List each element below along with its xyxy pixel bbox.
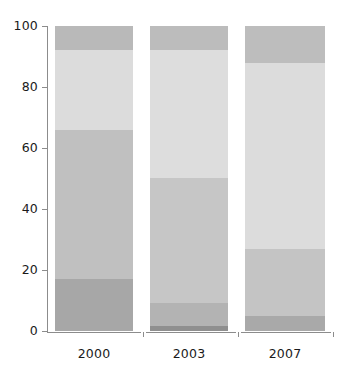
bar-2003-band-a bbox=[150, 326, 228, 331]
y-axis-tick-label-0: 0 bbox=[0, 325, 38, 338]
x-axis-tick-3 bbox=[333, 332, 334, 337]
y-axis-line bbox=[47, 26, 48, 332]
bar-2003-band-c bbox=[150, 178, 228, 303]
x-axis-segment-3 bbox=[241, 332, 331, 333]
stacked-bar-chart: 0 20 40 60 80 100 2000 2003 2007 bbox=[0, 0, 346, 386]
bar-2003-band-e bbox=[150, 26, 228, 50]
bar-2007-band-b bbox=[245, 249, 325, 316]
y-axis-tick-80 bbox=[42, 87, 47, 88]
y-axis-tick-20 bbox=[42, 270, 47, 271]
x-axis-label-2007: 2007 bbox=[245, 348, 325, 361]
bar-2000-band-b bbox=[55, 130, 133, 279]
y-axis-tick-100 bbox=[42, 26, 47, 27]
bar-2007 bbox=[245, 26, 325, 331]
bar-2007-band-a bbox=[245, 316, 325, 331]
y-axis-tick-label-40: 40 bbox=[0, 203, 38, 216]
bar-2000-band-a bbox=[55, 279, 133, 331]
x-axis-segment-1 bbox=[47, 332, 141, 333]
bar-2000 bbox=[55, 26, 133, 331]
bar-2003-band-d bbox=[150, 50, 228, 178]
bar-2007-band-c bbox=[245, 63, 325, 249]
bar-2000-band-c bbox=[55, 50, 133, 130]
x-axis-tick-2 bbox=[238, 332, 239, 337]
bar-2007-band-d bbox=[245, 26, 325, 63]
x-axis-label-2000: 2000 bbox=[54, 348, 134, 361]
x-axis-segment-2 bbox=[146, 332, 236, 333]
y-axis-tick-label-100: 100 bbox=[0, 20, 38, 33]
x-axis-label-2003: 2003 bbox=[149, 348, 229, 361]
bar-2003-band-b bbox=[150, 303, 228, 326]
y-axis-tick-label-60: 60 bbox=[0, 142, 38, 155]
y-axis-tick-40 bbox=[42, 209, 47, 210]
y-axis-tick-label-80: 80 bbox=[0, 81, 38, 94]
y-axis-tick-60 bbox=[42, 148, 47, 149]
y-axis-tick-label-20: 20 bbox=[0, 264, 38, 277]
bar-2003 bbox=[150, 26, 228, 331]
x-axis-tick-1 bbox=[143, 332, 144, 337]
bar-2000-band-d bbox=[55, 26, 133, 50]
